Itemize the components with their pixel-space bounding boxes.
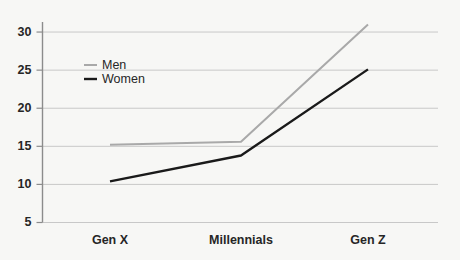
chart-background <box>0 0 460 260</box>
y-tick-label: 25 <box>18 63 32 77</box>
line-chart: 51015202530 Gen XMillennialsGen Z MenWom… <box>0 0 460 260</box>
y-tick-label: 30 <box>18 25 32 39</box>
y-tick-label: 5 <box>25 215 32 229</box>
x-tick-label: Millennials <box>209 233 273 247</box>
y-tick-label: 10 <box>18 177 32 191</box>
x-tick-label: Gen Z <box>350 233 386 247</box>
y-tick-label: 20 <box>18 101 32 115</box>
y-tick-label: 15 <box>18 139 32 153</box>
legend-label-men: Men <box>102 58 126 72</box>
legend-label-women: Women <box>102 72 145 86</box>
chart-canvas: 51015202530 Gen XMillennialsGen Z MenWom… <box>0 0 460 260</box>
x-tick-label: Gen X <box>92 233 129 247</box>
